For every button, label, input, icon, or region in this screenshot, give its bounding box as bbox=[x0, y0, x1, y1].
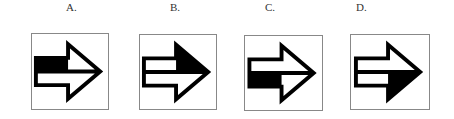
right-arrow-icon bbox=[32, 34, 108, 109]
option-box-a[interactable] bbox=[31, 33, 109, 110]
right-arrow-icon bbox=[140, 35, 216, 109]
right-arrow-icon bbox=[245, 36, 322, 110]
option-box-b[interactable] bbox=[139, 34, 217, 110]
option-label-d: D. bbox=[356, 1, 367, 13]
option-box-d[interactable] bbox=[350, 34, 430, 110]
option-label-c: C. bbox=[265, 1, 275, 13]
option-box-c[interactable] bbox=[244, 35, 323, 111]
option-label-b: B. bbox=[170, 1, 180, 13]
option-label-a: A. bbox=[66, 1, 77, 13]
right-arrow-icon bbox=[351, 35, 429, 109]
